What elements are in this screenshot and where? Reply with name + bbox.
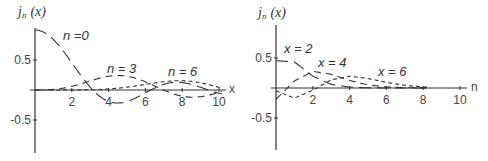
left-series-label-n3: n = 3 [107,61,137,76]
x-tick-label: 4 [346,93,353,107]
left-series-label-n6: n = 6 [168,64,198,79]
right-series-label-x4: x = 4 [317,55,347,70]
x-tick-label: 2 [68,95,75,109]
y-tick-label: 0.5 [255,51,272,65]
right-xlabel: n [471,80,478,94]
left-ylabel: jn(x) [16,4,46,20]
bessel-charts: jn(x) x 2468100.5-0.5 n =0 n = 3 n = 6 j… [0,0,488,161]
x-tick-label: 6 [142,95,149,109]
left-xlabel: x [229,82,235,96]
x-tick-label: 8 [420,93,427,107]
x-tick-label: 10 [212,95,226,109]
y-tick-label: -0.5 [10,113,31,127]
chart-left-jn-vs-x: jn(x) x 2468100.5-0.5 n =0 n = 3 n = 6 [10,4,235,153]
x-tick-label: 6 [383,93,390,107]
right-ylabel: jn(x) [256,5,286,21]
x-tick-label: 4 [105,95,112,109]
left-series-label-n0: n =0 [63,28,89,43]
right-series-label-x2: x = 2 [283,41,313,56]
x-tick-label: 10 [453,93,467,107]
x-tick-label: 8 [179,95,186,109]
right-series-label-x6: x = 6 [377,64,407,79]
y-tick-label: 0.5 [14,53,31,67]
chart-right-jn-vs-n: jn(x) n 2468100.5-0.5 x = 2 x = 4 x = 6 [251,5,477,150]
x-tick-label: 2 [309,93,316,107]
y-tick-label: -0.5 [251,111,272,125]
